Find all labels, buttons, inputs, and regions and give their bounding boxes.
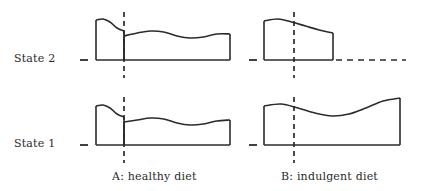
panel-state2-indulgent [264, 12, 406, 78]
profile-state2-healthy-pre-intervention [96, 19, 124, 31]
profile-state1-healthy-post-intervention [124, 118, 230, 125]
plot-geometry-layer [0, 0, 424, 191]
panel-state2-healthy [96, 12, 230, 78]
diet-state-figure: State 2 State 1 A: healthy diet B: indul… [0, 0, 424, 191]
panel-state1-healthy [96, 97, 230, 163]
profile-state1-healthy-pre-intervention [96, 105, 124, 117]
panels-group [96, 12, 406, 163]
profile-state1-indulgent-continuous-block [264, 98, 400, 116]
profile-state2-indulgent-continuous-block [264, 19, 333, 33]
panel-state1-indulgent [264, 97, 400, 163]
profile-state2-healthy-post-intervention [124, 31, 230, 38]
